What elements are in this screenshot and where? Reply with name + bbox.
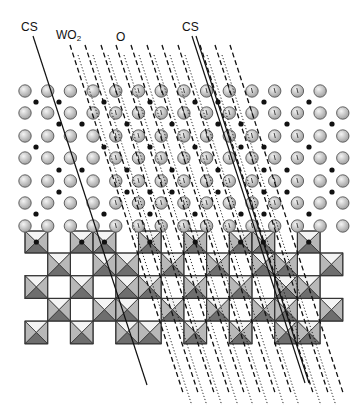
label-cs-left: CS: [21, 21, 38, 33]
metal-atom: [238, 144, 243, 149]
octahedron: [25, 276, 48, 299]
octahedron: [139, 321, 162, 344]
octahedron: [184, 276, 207, 299]
oxygen-atom: [314, 220, 326, 232]
label-wo2: WO2: [56, 29, 81, 43]
plane-line: [93, 55, 207, 405]
octahedron: [70, 321, 93, 344]
octahedron: [70, 231, 93, 253]
oxygen-atom: [314, 152, 326, 164]
octahedron: [139, 276, 162, 299]
oxygen-atom: [314, 107, 326, 119]
metal-atom: [329, 189, 334, 194]
oxygen-atom: [87, 85, 99, 97]
octahedron: [184, 321, 207, 344]
oxygen-atom: [19, 152, 31, 164]
oxygen-atom: [314, 130, 326, 142]
metal-atom: [306, 239, 311, 244]
octahedron: [161, 298, 184, 321]
oxygen-atom: [64, 197, 76, 209]
metal-atom: [79, 121, 84, 126]
oxygen-atom: [64, 107, 76, 119]
octahedron: [229, 321, 252, 344]
octahedron: [93, 298, 116, 321]
oxygen-atom: [314, 175, 326, 187]
metal-atom: [284, 189, 289, 194]
metal-atom: [238, 211, 243, 216]
metal-atom: [261, 211, 266, 216]
oxygen-atom: [87, 152, 99, 164]
oxygen-atom: [19, 175, 31, 187]
oxygen-atom: [337, 130, 349, 142]
metal-atom: [215, 189, 220, 194]
metal-atom: [124, 189, 129, 194]
metal-atom: [102, 239, 107, 244]
oxygen-atom: [19, 107, 31, 119]
cs-plane-diagram: CS WO2 O CS: [0, 0, 363, 414]
metal-atom: [56, 167, 61, 172]
oxygen-atom: [42, 130, 54, 142]
oxygen-atom: [19, 85, 31, 97]
metal-atom: [33, 99, 38, 104]
octahedron: [207, 253, 230, 276]
octahedron: [275, 253, 298, 276]
octahedron: [70, 276, 93, 299]
metal-atom: [79, 239, 84, 244]
metal-atom: [284, 167, 289, 172]
oxygen-atom: [87, 130, 99, 142]
label-o: O: [116, 31, 125, 43]
octahedron: [161, 253, 184, 276]
label-cs-right: CS: [182, 21, 199, 33]
octahedron: [116, 253, 139, 276]
metal-atom: [33, 144, 38, 149]
oxygen-atom: [19, 220, 31, 232]
metal-atom: [147, 211, 152, 216]
oxygen-atom: [337, 107, 349, 119]
metal-atom: [306, 144, 311, 149]
octahedron: [48, 298, 71, 321]
octahedron: [25, 321, 48, 344]
metal-atom: [261, 167, 266, 172]
diagram-canvas: [0, 0, 363, 414]
metal-atom: [329, 121, 334, 126]
oxygen-atom: [19, 130, 31, 142]
octahedron: [184, 231, 207, 253]
metal-atom: [33, 211, 38, 216]
metal-atom: [284, 121, 289, 126]
oxygen-atom: [337, 220, 349, 232]
oxygen-atom: [42, 197, 54, 209]
oxygen-atom: [64, 85, 76, 97]
octahedron: [297, 276, 320, 299]
metal-atom: [306, 99, 311, 104]
oxygen-atom: [87, 175, 99, 187]
metal-atom: [56, 189, 61, 194]
metal-atom: [101, 211, 106, 216]
plane-line: [162, 45, 276, 395]
octahedron: [93, 231, 116, 253]
oxygen-atom: [42, 175, 54, 187]
octahedron: [116, 276, 139, 299]
metal-atom: [261, 99, 266, 104]
octahedron: [297, 321, 320, 344]
metal-atom: [192, 211, 197, 216]
oxygen-atom: [64, 220, 76, 232]
oxygen-atom-layer: [19, 85, 349, 232]
octahedron: [320, 298, 343, 321]
metal-atom: [56, 99, 61, 104]
octahedron: [320, 253, 343, 276]
metal-atom: [329, 167, 334, 172]
oxygen-atom: [337, 175, 349, 187]
oxygen-atom: [64, 175, 76, 187]
octahedron: [207, 298, 230, 321]
metal-atom: [79, 167, 84, 172]
octahedron: [48, 253, 71, 276]
octahedron: [297, 231, 320, 253]
octahedron: [25, 231, 48, 253]
oxygen-atom: [314, 197, 326, 209]
oxygen-atom: [314, 85, 326, 97]
metal-atom: [34, 239, 39, 244]
octahedron: [229, 276, 252, 299]
metal-atom: [169, 189, 174, 194]
oxygen-atom: [42, 107, 54, 119]
oxygen-atom: [42, 220, 54, 232]
